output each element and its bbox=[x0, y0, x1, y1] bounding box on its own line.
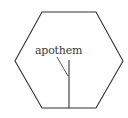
hexagon-figure bbox=[0, 0, 128, 118]
hexagon-diagram: apothem bbox=[0, 0, 128, 118]
label-leader-line bbox=[57, 57, 68, 76]
apothem-label: apothem bbox=[35, 45, 82, 57]
